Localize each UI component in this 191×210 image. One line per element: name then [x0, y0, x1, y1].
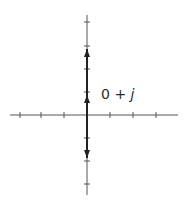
vectors	[84, 49, 90, 158]
arrowhead-icon	[84, 150, 90, 158]
arrowhead-icon	[84, 95, 90, 103]
phasor-label: 0 + j	[101, 87, 134, 101]
arrowhead-icon	[84, 49, 90, 57]
label-real: 0	[101, 86, 110, 102]
label-operator: +	[114, 86, 126, 102]
axes	[10, 15, 178, 195]
complex-plane-diagram	[0, 0, 191, 210]
label-imaginary-unit: j	[131, 86, 135, 102]
